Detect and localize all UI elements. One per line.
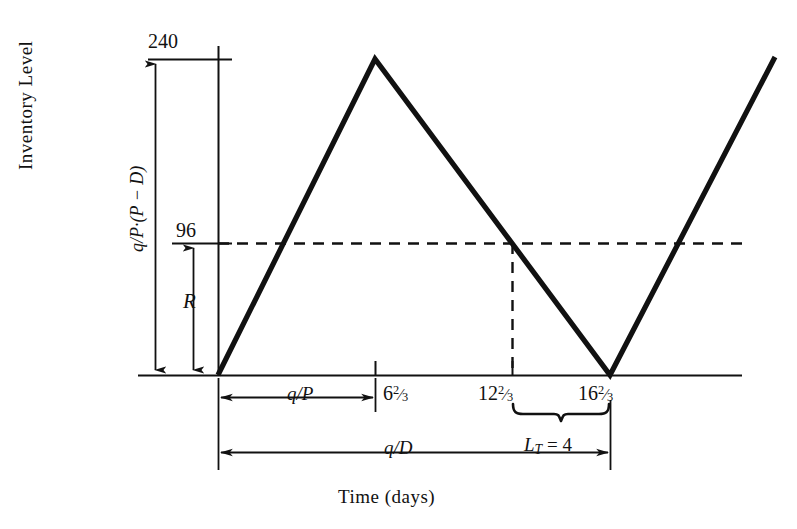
lead-time-brace <box>513 404 609 421</box>
x-tick-16-denominator: 3 <box>607 390 613 404</box>
lead-time-symbol: L <box>524 434 535 455</box>
max-inventory-bracket-label: q/P·(P − D) <box>128 166 146 252</box>
x-tick-12-whole: 12 <box>478 382 498 404</box>
cycle-time-label: q/D <box>384 438 413 457</box>
lead-time-subscript: T <box>535 442 543 457</box>
x-tick-label-16-2-3: 162⁄3 <box>578 383 613 404</box>
production-time-label: q/P <box>287 384 313 403</box>
x-tick-12-denominator: 3 <box>507 390 513 404</box>
x-axis-title: Time (days) <box>338 487 435 506</box>
x-tick-16-whole: 16 <box>578 382 598 404</box>
y-tick-label-240: 240 <box>148 31 178 51</box>
lead-time-label: LT = 4 <box>524 435 572 457</box>
lead-time-value: = 4 <box>547 434 572 455</box>
y-tick-label-96: 96 <box>176 220 196 240</box>
x-tick-label-12-2-3: 122⁄3 <box>478 383 513 404</box>
x-tick-6-denominator: 3 <box>402 390 408 404</box>
x-tick-label-6-2-3: 62⁄3 <box>383 383 408 404</box>
inventory-level-curve <box>218 57 775 375</box>
inventory-level-figure: Inventory Level q/P·(P − D) R 240 96 q/P… <box>0 0 797 529</box>
reorder-point-label: R <box>183 291 196 312</box>
y-axis-title: Inventory Level <box>16 41 35 170</box>
x-tick-6-whole: 6 <box>383 382 393 404</box>
